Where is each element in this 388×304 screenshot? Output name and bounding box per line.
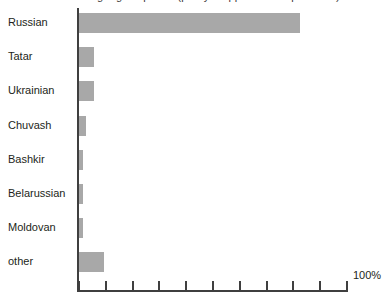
category-label: Tatar [8, 51, 74, 62]
bar [79, 218, 83, 238]
bar [79, 81, 94, 101]
bar-chart: Languages spoken (partly cropped above p… [0, 0, 388, 304]
bar [79, 13, 300, 33]
x-axis-tick [212, 281, 214, 290]
axis-end-label: 100% [353, 270, 381, 281]
x-axis-tick [239, 281, 241, 290]
bar [79, 252, 104, 272]
bar [79, 116, 86, 136]
x-axis-tick [132, 281, 134, 290]
category-label: Bashkir [8, 154, 74, 165]
x-axis-tick [266, 281, 268, 290]
x-axis-tick [292, 281, 294, 290]
bar [79, 47, 94, 67]
plot-area: RussianTatarUkrainianChuvashBashkirBelar… [0, 0, 388, 304]
category-label: Chuvash [8, 120, 74, 131]
bar [79, 184, 83, 204]
x-axis-tick [346, 281, 348, 290]
category-label: Russian [8, 17, 74, 28]
x-axis-tick [158, 281, 160, 290]
x-axis-tick [105, 281, 107, 290]
category-label: Moldovan [8, 222, 74, 233]
bar [79, 150, 83, 170]
x-axis-tick [185, 281, 187, 290]
x-axis-tick [78, 281, 80, 290]
category-label: Ukrainian [8, 85, 74, 96]
category-label: other [8, 256, 74, 267]
x-axis-tick [319, 281, 321, 290]
category-label: Belarussian [8, 188, 74, 199]
x-axis-line [77, 290, 348, 292]
